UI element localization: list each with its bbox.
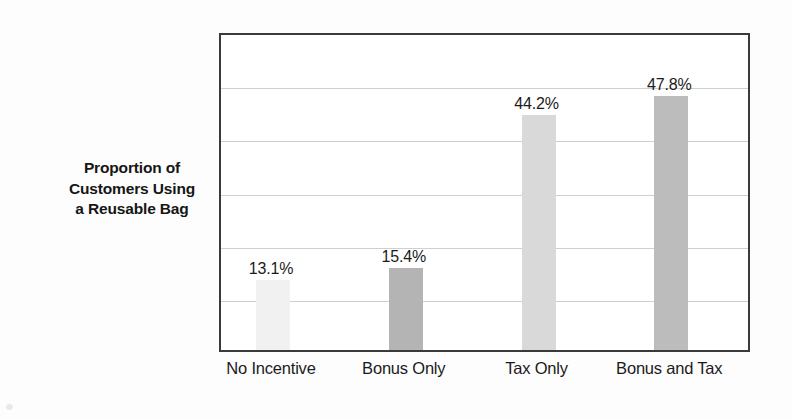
bar-chart-figure: Proportion of Customers Using a Reusable… xyxy=(0,0,792,419)
bar-value-label: 47.8% xyxy=(624,76,714,94)
bar[interactable] xyxy=(522,115,556,350)
category-label: No Incentive xyxy=(201,359,341,378)
bar-value-label: 15.4% xyxy=(359,248,449,266)
bar[interactable] xyxy=(389,268,423,350)
bar[interactable] xyxy=(654,96,688,350)
bar-value-label: 44.2% xyxy=(492,95,582,113)
y-axis-title-line-3: a Reusable Bag xyxy=(58,199,206,220)
y-axis-title: Proportion of Customers Using a Reusable… xyxy=(58,158,206,220)
scan-artifact xyxy=(6,404,13,410)
category-label: Bonus and Tax xyxy=(599,359,739,378)
bar[interactable] xyxy=(256,280,290,350)
y-axis-title-line-2: Customers Using xyxy=(58,179,206,200)
bar-value-label: 13.1% xyxy=(226,260,316,278)
category-label: Bonus Only xyxy=(334,359,474,378)
y-axis-title-line-1: Proportion of xyxy=(58,158,206,179)
category-label: Tax Only xyxy=(467,359,607,378)
